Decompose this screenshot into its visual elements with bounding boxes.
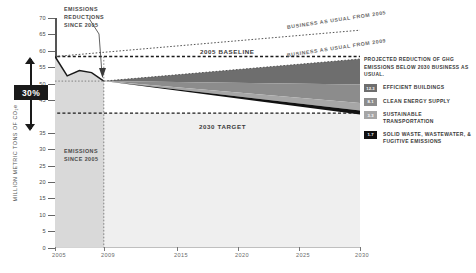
y-tick	[48, 34, 55, 35]
x-tick-label: 2009	[101, 252, 115, 258]
x-tick-label: 2015	[174, 252, 188, 258]
legend-item: 12.3 EFFICIENT BUILDINGS	[364, 84, 474, 93]
legend-label: EFFICIENT BUILDINGS	[383, 84, 444, 92]
emissions-area-label: EMISSIONS SINCE 2005	[64, 148, 98, 164]
target-label: 2030 TARGET	[199, 123, 246, 130]
y-tick	[48, 84, 55, 85]
y-tick	[48, 215, 55, 216]
y-tick	[48, 149, 55, 150]
legend-title: PROJECTED REDUCTION OF GHG EMISSIONS BEL…	[364, 56, 474, 79]
y-tick	[48, 166, 55, 167]
y-tick	[48, 198, 55, 199]
area-label-line-2: SINCE 2005	[64, 156, 98, 164]
y-tick-label: 10	[6, 212, 46, 218]
percent-reduction-bracket: 30%	[14, 57, 48, 131]
y-tick	[48, 51, 55, 52]
y-tick-label: 5	[6, 228, 46, 234]
x-tick-label: 2030	[355, 252, 369, 258]
y-tick-label: 0	[6, 245, 46, 251]
y-tick	[48, 18, 55, 19]
legend-swatch: 12.3	[364, 84, 377, 92]
legend-swatch: 3.3	[364, 111, 377, 119]
chart-canvas: 70 65 60 55 50 45 35 30 25 20 15 10 5 0 …	[0, 0, 476, 273]
x-tick-label: 2025	[296, 252, 310, 258]
y-axis-tick-labels: 70 65 60 55 50 45 35 30 25 20 15 10 5 0	[0, 18, 46, 248]
y-tick-label: 70	[6, 15, 46, 21]
x-tick-label: 2020	[235, 252, 249, 258]
x-tick	[360, 247, 361, 251]
y-tick	[48, 100, 55, 101]
emissions-reductions-callout: EMISSIONS REDUCTIONS SINCE 2005	[64, 6, 104, 29]
x-tick	[104, 247, 105, 251]
baseline-label: 2005 BASELINE	[200, 48, 255, 55]
legend-item: 1.7 SOLID WASTE, WASTEWATER, & FUGITIVE …	[364, 130, 474, 145]
x-tick	[299, 247, 300, 251]
legend-item: 8.1 CLEAN ENERGY SUPPLY	[364, 97, 474, 106]
y-tick-label: 65	[6, 31, 46, 37]
area-label-line-1: EMISSIONS	[64, 148, 98, 156]
legend-item: 3.3 SUSTAINABLE TRANSPORTATION	[364, 111, 474, 126]
callout-line-2: REDUCTIONS	[64, 14, 104, 22]
percent-badge: 30%	[14, 85, 48, 100]
legend: PROJECTED REDUCTION OF GHG EMISSIONS BEL…	[364, 56, 474, 150]
x-tick	[55, 247, 56, 251]
y-tick-label: 60	[6, 48, 46, 54]
callout-line-3: SINCE 2005	[64, 22, 104, 30]
arrow-down-icon	[25, 124, 35, 131]
legend-label: SUSTAINABLE TRANSPORTATION	[383, 111, 474, 126]
x-tick	[177, 247, 178, 251]
legend-label: CLEAN ENERGY SUPPLY	[383, 97, 450, 105]
y-tick	[48, 231, 55, 232]
callout-line-1: EMISSIONS	[64, 6, 104, 14]
y-tick	[48, 67, 55, 68]
y-tick	[48, 133, 55, 134]
x-tick-label: 2005	[52, 252, 66, 258]
legend-swatch: 8.1	[364, 98, 377, 106]
y-tick	[48, 248, 55, 249]
x-tick	[238, 247, 239, 251]
legend-label: SOLID WASTE, WASTEWATER, & FUGITIVE EMIS…	[383, 130, 474, 145]
legend-swatch: 1.7	[364, 131, 377, 139]
y-tick	[48, 182, 55, 183]
